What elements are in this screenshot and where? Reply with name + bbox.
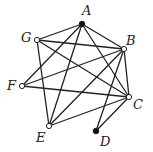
edge-B-F bbox=[22, 49, 124, 86]
node-A bbox=[79, 21, 85, 27]
graph-diagram: AGBFCED bbox=[0, 0, 153, 152]
node-label-F: F bbox=[6, 78, 17, 93]
node-label-A: A bbox=[81, 3, 91, 18]
node-C bbox=[126, 94, 131, 99]
node-label-E: E bbox=[35, 130, 46, 145]
node-E bbox=[46, 123, 51, 128]
node-label-D: D bbox=[99, 134, 111, 149]
edge-B-D bbox=[96, 49, 124, 131]
node-label-B: B bbox=[125, 33, 136, 48]
node-label-G: G bbox=[21, 30, 31, 45]
edge-G-E bbox=[37, 40, 49, 126]
edge-E-C bbox=[49, 97, 129, 126]
edge-A-C bbox=[82, 24, 129, 97]
node-D bbox=[93, 128, 99, 134]
node-G bbox=[34, 37, 39, 42]
node-F bbox=[19, 83, 24, 88]
node-label-C: C bbox=[133, 97, 143, 112]
edge-C-D bbox=[96, 97, 129, 131]
labels-layer: AGBFCED bbox=[6, 3, 143, 149]
edge-A-G bbox=[37, 24, 82, 40]
